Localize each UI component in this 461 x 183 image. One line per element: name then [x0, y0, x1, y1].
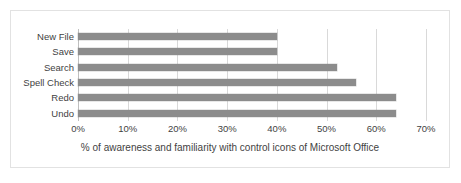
chart-container: New FileSaveSearchSpell CheckRedoUndo 0%… [10, 10, 450, 168]
value-axis-tick-labels: 0%10%20%30%40%50%60%70% [78, 123, 426, 137]
bar[interactable] [78, 79, 356, 86]
value-axis-tick-label: 60% [367, 123, 386, 134]
bar-row [78, 44, 426, 59]
category-axis-label: Save [11, 44, 74, 59]
value-axis-tick-label: 0% [71, 123, 85, 134]
plot-area [78, 29, 426, 121]
bar[interactable] [78, 64, 337, 71]
value-axis-tick-label: 70% [416, 123, 435, 134]
category-axis-label: Undo [11, 106, 74, 121]
bar[interactable] [78, 33, 277, 40]
bar-row [78, 29, 426, 44]
category-axis-label: Search [11, 60, 74, 75]
bar[interactable] [78, 94, 396, 101]
bar-row [78, 90, 426, 105]
value-axis-tick-label: 10% [118, 123, 137, 134]
value-axis-tick-label: 40% [267, 123, 286, 134]
value-axis-tick-label: 20% [168, 123, 187, 134]
category-axis-label: Redo [11, 90, 74, 105]
bar-row [78, 60, 426, 75]
bar[interactable] [78, 110, 396, 117]
bar-series [78, 29, 426, 121]
value-axis-tick-label: 50% [317, 123, 336, 134]
category-axis-label: Spell Check [11, 75, 74, 90]
category-axis-label: New File [11, 29, 74, 44]
bar-row [78, 75, 426, 90]
category-axis-labels: New FileSaveSearchSpell CheckRedoUndo [11, 29, 74, 121]
axis-title-caption: % of awareness and familiarity with cont… [11, 142, 449, 153]
bar-row [78, 106, 426, 121]
value-axis-tick-label: 30% [218, 123, 237, 134]
bar[interactable] [78, 48, 277, 55]
gridline [426, 29, 427, 121]
